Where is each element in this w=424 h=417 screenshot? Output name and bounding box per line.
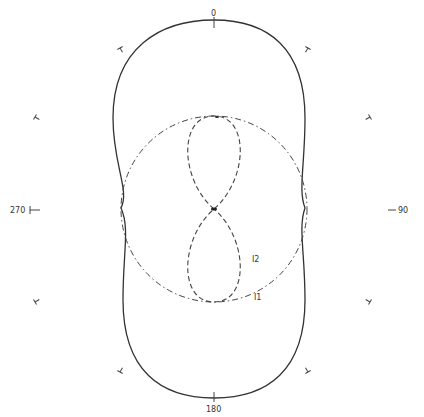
label-180: 180 [206,405,221,414]
label-90: 90 [398,206,408,215]
label-i1: I1 [254,293,261,302]
label-270: 270 [10,206,25,215]
outer-solid-curve [113,20,305,398]
label-0: 0 [211,9,216,18]
polar-diagram: 0 180 270 90 I2 I1 [0,0,424,417]
top-point [215,116,219,118]
center-point [211,207,217,210]
tick-markers [34,47,372,374]
label-i2: I2 [252,255,259,264]
